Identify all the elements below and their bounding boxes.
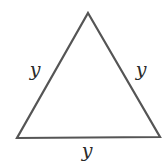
- right-side-label: y: [135, 58, 147, 80]
- triangle-diagram: y y y: [0, 0, 168, 166]
- triangle-svg: y y y: [0, 0, 168, 166]
- left-side-label: y: [29, 58, 41, 80]
- bottom-side-label: y: [81, 139, 93, 161]
